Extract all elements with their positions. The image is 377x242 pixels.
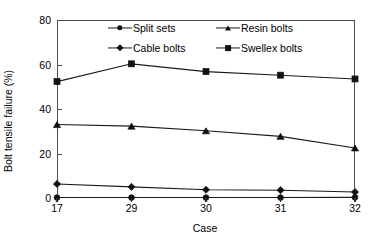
data-point-marker: [54, 79, 60, 85]
triangle-glyph-icon: [225, 26, 231, 31]
data-point-marker: [278, 72, 284, 78]
legend-entry-cable-bolts[interactable]: Cable bolts: [108, 42, 216, 54]
chart-legend: Split setsResin boltsCable boltsSwellex …: [108, 18, 330, 58]
y-tick-label: 40: [27, 104, 51, 115]
legend-label: Split sets: [133, 22, 176, 34]
x-tick-label: 32: [335, 202, 375, 214]
series-resin-bolts: [53, 122, 358, 151]
data-point-marker: [53, 180, 60, 187]
x-tick-mark: [131, 198, 132, 202]
x-tick-label: 29: [112, 202, 152, 214]
data-point-marker: [277, 187, 284, 194]
circle-glyph-icon: [117, 25, 122, 30]
square-glyph-icon: [225, 45, 231, 51]
legend-label: Resin bolts: [241, 22, 293, 34]
x-tick-label: 31: [261, 202, 301, 214]
data-point-marker: [351, 188, 358, 195]
data-point-marker: [203, 69, 209, 75]
x-tick-mark: [205, 198, 206, 202]
x-tick-mark: [56, 198, 57, 202]
legend-entry-swellex-bolts[interactable]: Swellex bolts: [216, 42, 330, 54]
x-tick-label: 30: [186, 202, 226, 214]
y-tick-mark: [57, 109, 62, 110]
legend-label: Cable bolts: [133, 42, 186, 54]
y-tick-label: 60: [27, 59, 51, 70]
legend-marker-triangle-icon: [216, 22, 240, 34]
data-point-marker: [128, 183, 135, 190]
legend-marker-diamond-icon: [108, 42, 132, 54]
data-point-marker: [202, 186, 209, 193]
legend-entry-split-sets[interactable]: Split sets: [108, 22, 216, 34]
bolt-tensile-failure-chart: Bolt tensile failure (%) Case Split sets…: [0, 0, 377, 242]
x-tick-mark: [280, 198, 281, 202]
y-tick-label: 20: [27, 148, 51, 159]
legend-marker-square-icon: [216, 42, 240, 54]
data-point-marker: [129, 61, 135, 67]
legend-marker-circle-icon: [108, 22, 132, 34]
legend-label: Swellex bolts: [241, 42, 302, 54]
diamond-glyph-icon: [116, 44, 124, 52]
x-tick-label: 17: [37, 202, 77, 214]
y-tick-mark: [57, 154, 62, 155]
x-tick-mark: [354, 198, 355, 202]
legend-entry-resin-bolts[interactable]: Resin bolts: [216, 22, 330, 34]
y-tick-mark: [57, 65, 62, 66]
y-tick-label: 80: [27, 15, 51, 26]
series-swellex-bolts: [54, 61, 358, 85]
data-point-marker: [352, 76, 358, 82]
series-cable-bolts: [53, 180, 358, 195]
